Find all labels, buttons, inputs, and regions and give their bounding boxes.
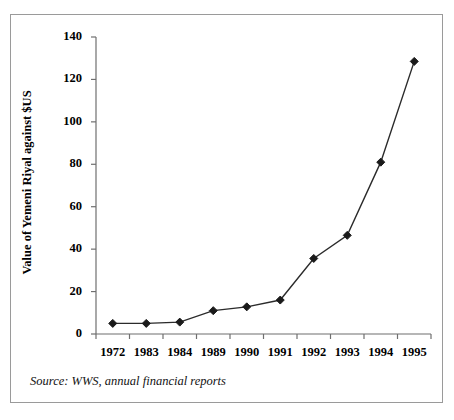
y-tick-label: 120 xyxy=(48,71,82,86)
y-tick-label: 0 xyxy=(48,326,82,341)
figure-container: 020406080100120140 197219831984198919901… xyxy=(0,0,454,420)
data-point-marker xyxy=(142,319,150,327)
y-tick-label: 140 xyxy=(48,29,82,44)
y-tick-label: 60 xyxy=(48,199,82,214)
y-tick-label: 80 xyxy=(48,156,82,171)
data-point-marker xyxy=(109,319,117,327)
data-point-marker xyxy=(377,158,385,166)
data-point-markers xyxy=(109,57,419,327)
y-axis-title: Value of Yemeni Riyal against $US xyxy=(20,83,35,283)
y-tick-label: 100 xyxy=(48,114,82,129)
data-point-marker xyxy=(243,303,251,311)
y-axis-ticks xyxy=(91,37,96,334)
x-tick-label: 1995 xyxy=(394,345,434,360)
data-point-marker xyxy=(343,231,351,239)
source-note: Source: WWS, annual financial reports xyxy=(30,374,226,389)
y-tick-label: 40 xyxy=(48,241,82,256)
x-axis-ticks xyxy=(96,334,431,339)
data-point-marker xyxy=(176,318,184,326)
axis-lines xyxy=(96,37,431,334)
y-tick-label: 20 xyxy=(48,284,82,299)
data-series-line xyxy=(113,61,415,323)
data-point-marker xyxy=(410,57,418,65)
data-point-marker xyxy=(209,307,217,315)
